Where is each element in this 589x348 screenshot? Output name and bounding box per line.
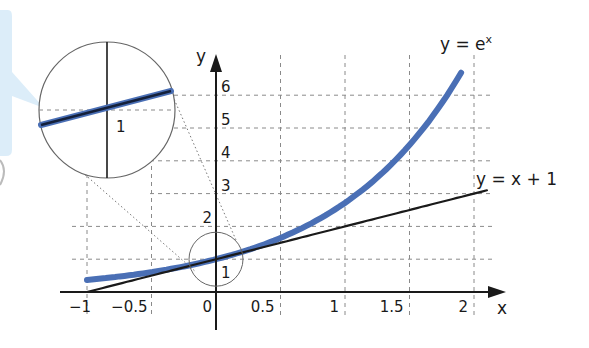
y-tick-label: 4 (221, 144, 231, 162)
x-tick-label: 1.5 (380, 298, 404, 316)
callout-shape (0, 10, 44, 156)
y-tick-label: 2 (202, 209, 212, 227)
x-tick-label: −1 (69, 298, 91, 316)
y-tick-label: 1 (221, 264, 231, 282)
x-tick-label: 0 (202, 298, 212, 316)
chart-svg: −1−0.500.511.52123456 1 y = ex y = x + 1… (0, 0, 589, 348)
x-tick-label: 1 (329, 298, 339, 316)
magnifier-label: 1 (116, 118, 126, 136)
connector-line (82, 172, 196, 272)
x-tick-label: −0.5 (111, 298, 147, 316)
x-tick-label: 2 (458, 298, 468, 316)
x-tick-label: 0.5 (251, 298, 275, 316)
y-axis-arrow-icon (210, 54, 222, 72)
y-tick-label: 6 (221, 78, 231, 96)
y-tick-label: 5 (221, 111, 231, 129)
tangent-line-label: y = x + 1 (476, 169, 557, 189)
tangent-line (87, 190, 487, 292)
magnifier: 1 (39, 42, 243, 286)
y-axis-label: y (196, 46, 206, 66)
y-tick-label: 3 (221, 177, 231, 195)
exp-curve-label: y = ex (440, 33, 493, 54)
x-axis-label: x (497, 298, 507, 318)
chart-stage: −1−0.500.511.52123456 1 y = ex y = x + 1… (0, 0, 589, 348)
callout-edge-mark (0, 160, 4, 185)
x-axis-arrow-icon (488, 286, 506, 298)
